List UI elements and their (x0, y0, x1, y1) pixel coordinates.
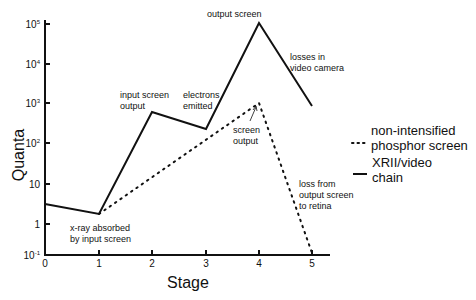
annotation-screen-output: screenoutput (233, 125, 260, 146)
svg-text:3: 3 (203, 258, 209, 269)
annotations: x-ray absorbedby input screen input scre… (70, 9, 354, 244)
svg-text:4: 4 (256, 258, 262, 269)
svg-text:5: 5 (309, 258, 315, 269)
svg-text:105: 105 (26, 19, 41, 30)
annotation-output-screen: output screen (207, 9, 262, 19)
svg-text:10-1: 10-1 (24, 250, 41, 261)
svg-text:2: 2 (149, 258, 155, 269)
x-tick-labels: 0 1 2 3 4 5 (42, 258, 315, 269)
series-xrii-video-chain (45, 23, 312, 214)
annotation-arrow (250, 107, 256, 121)
legend-dotted-label: non-intensifiedphosphor screen (371, 123, 468, 153)
annotation-electrons-emitted: electronsemitted (183, 90, 220, 111)
series-non-intensified-phosphor (99, 103, 312, 253)
chart: 105 104 103 102 10 1 10-1 0 1 2 3 4 5 St… (0, 0, 476, 300)
annotation-losses-video-camera: losses invideo camera (290, 52, 344, 73)
svg-text:102: 102 (26, 138, 41, 149)
svg-text:0: 0 (42, 258, 48, 269)
svg-text:103: 103 (26, 98, 41, 109)
svg-text:10: 10 (29, 179, 41, 190)
svg-text:1: 1 (34, 219, 40, 230)
svg-text:1: 1 (96, 258, 102, 269)
x-axis-label: Stage (167, 274, 209, 291)
annotation-xray-absorbed: x-ray absorbedby input screen (70, 223, 131, 244)
legend: non-intensifiedphosphor screen XRII/vide… (352, 123, 468, 185)
svg-text:104: 104 (26, 59, 41, 70)
legend-solid-label: XRII/videochain (372, 155, 432, 185)
y-axis-label: Quanta (10, 129, 27, 182)
annotation-input-screen-output: input screenoutput (120, 90, 169, 111)
annotation-loss-to-retina: loss fromoutput screento retina (299, 179, 354, 211)
